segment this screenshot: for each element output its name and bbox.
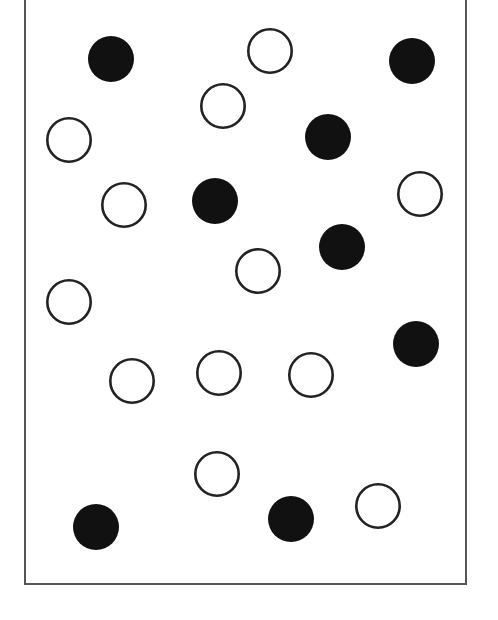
circle-group [47, 29, 441, 550]
filled-circle [268, 496, 314, 542]
open-circle [102, 183, 145, 226]
filled-circle [88, 36, 134, 82]
open-circle [398, 172, 441, 215]
dot-diagram [0, 0, 498, 620]
open-circle [47, 280, 90, 323]
filled-circle [73, 504, 119, 550]
open-circle [195, 452, 238, 495]
frame [25, 0, 466, 584]
filled-circle [393, 321, 439, 367]
open-circle [356, 484, 399, 527]
open-circle [248, 29, 291, 72]
filled-circle [305, 114, 351, 160]
open-circle [47, 118, 90, 161]
open-circle [110, 359, 153, 402]
diagram-canvas [0, 0, 498, 620]
open-circle [236, 249, 279, 292]
filled-circle [389, 38, 435, 84]
frame-border [25, 0, 466, 584]
open-circle [201, 84, 244, 127]
open-circle [197, 351, 240, 394]
filled-circle [192, 178, 238, 224]
filled-circle [319, 224, 365, 270]
open-circle [289, 353, 332, 396]
